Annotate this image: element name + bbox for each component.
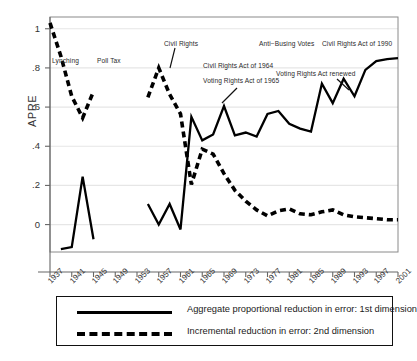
y-tick-label: .2	[18, 179, 40, 190]
y-tick-label: 1	[18, 23, 40, 34]
y-tick-label: .6	[18, 101, 40, 112]
plot-frame	[50, 17, 398, 252]
legend-item-solid: Aggregate proportional reduction in erro…	[57, 301, 392, 323]
chart-annotation: Voting Rights Act renewed	[276, 70, 355, 77]
legend-item-dashed: Incremental reduction in error: 2nd dime…	[57, 323, 392, 345]
legend-swatch-solid-line	[77, 311, 172, 314]
legend: Aggregate proportional reduction in erro…	[56, 296, 393, 346]
chart-annotation: Civil Rights Act of 1990	[322, 40, 392, 47]
legend-label-dashed: Incremental reduction in error: 2nd dime…	[187, 326, 374, 336]
legend-label-solid: Aggregate proportional reduction in erro…	[187, 304, 417, 314]
chart-annotation: Civil Rights	[164, 40, 198, 47]
y-tick-label: 0	[18, 219, 40, 230]
chart-annotation: Civil Rights Act of 1964	[203, 62, 273, 69]
y-tick-label: .4	[18, 140, 40, 151]
annotation-leader	[170, 48, 175, 68]
chart-annotation: Lynching	[52, 57, 79, 64]
legend-swatch-dashed-line	[77, 332, 172, 336]
series-line-dashed	[148, 68, 398, 220]
chart-annotation: Voting Rights Act of 1965	[203, 77, 279, 84]
series-line-solid	[61, 177, 94, 249]
y-tick-label: .8	[18, 62, 40, 73]
chart-annotation: Anti−Busing Votes	[259, 40, 314, 47]
annotation-leader	[222, 88, 237, 103]
series-line-dashed	[50, 23, 94, 118]
chart-annotation: Poll Tax	[97, 57, 121, 64]
